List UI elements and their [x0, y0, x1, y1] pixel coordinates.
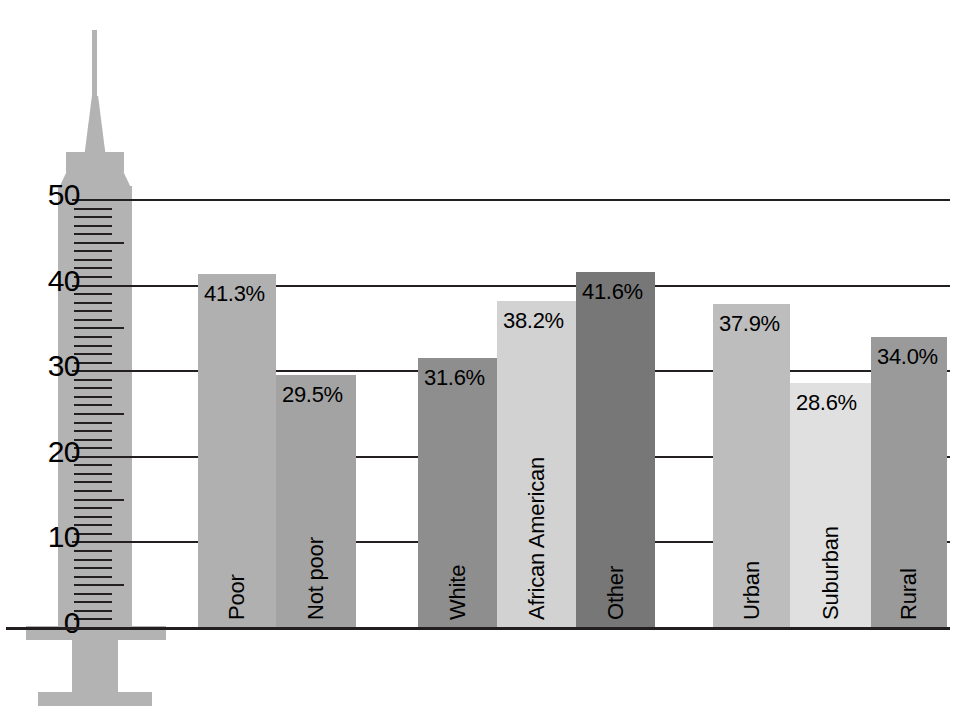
graduation-mark-8: [74, 559, 112, 561]
graduation-mark-10: [72, 541, 132, 543]
bar-african-american[interactable]: 38.2%African American: [497, 301, 576, 628]
y-tick-label-40: 40: [34, 264, 80, 298]
y-tick-label-20: 20: [34, 435, 80, 469]
graduation-mark-25: [74, 413, 124, 415]
bar-category-label: African American: [524, 457, 550, 620]
chart-figure: 01020304050 41.3%Poor29.5%Not poor31.6%W…: [0, 0, 972, 725]
graduation-mark-40: [72, 285, 132, 287]
graduation-mark-4: [74, 593, 112, 595]
bar-category-label: Not poor: [303, 537, 329, 620]
bar-value-label: 37.9%: [719, 311, 780, 337]
graduation-mark-36: [74, 319, 112, 321]
graduation-mark-6: [74, 576, 112, 578]
graduation-mark-17: [74, 481, 112, 483]
syringe-hub-icon: [84, 96, 106, 158]
syringe-thumbrest-icon: [38, 692, 152, 706]
graduation-mark-33: [74, 345, 112, 347]
bar-category-label: Suburban: [818, 526, 844, 620]
gridline-50: [100, 199, 950, 201]
graduation-mark-3: [74, 601, 112, 603]
bar-category-label: Other: [603, 566, 629, 620]
graduation-mark-18: [74, 473, 112, 475]
syringe-barrel-icon: [58, 186, 132, 632]
graduation-mark-34: [74, 336, 112, 338]
graduation-mark-16: [74, 490, 112, 492]
bar-poor[interactable]: 41.3%Poor: [198, 274, 276, 628]
graduation-mark-7: [74, 567, 112, 569]
bar-value-label: 41.6%: [582, 279, 643, 305]
bar-suburban[interactable]: 28.6%Suburban: [790, 383, 871, 628]
y-tick-label-0: 0: [34, 606, 80, 640]
bar-not-poor[interactable]: 29.5%Not poor: [276, 375, 356, 628]
bar-value-label: 41.3%: [204, 281, 265, 307]
graduation-mark-48: [74, 216, 112, 218]
graduation-mark-5: [74, 584, 124, 586]
graduation-mark-47: [74, 225, 112, 227]
graduation-mark-26: [74, 404, 112, 406]
bar-category-label: White: [445, 565, 471, 620]
bar-value-label: 28.6%: [796, 390, 857, 416]
bar-value-label: 38.2%: [503, 308, 564, 334]
graduation-mark-27: [74, 396, 112, 398]
graduation-mark-13: [74, 516, 112, 518]
bar-urban[interactable]: 37.9%Urban: [713, 304, 790, 628]
bar-value-label: 34.0%: [877, 344, 938, 370]
graduation-mark-44: [74, 250, 112, 252]
y-tick-label-50: 50: [34, 178, 80, 212]
graduation-mark-45: [74, 242, 124, 244]
graduation-mark-38: [74, 302, 112, 304]
graduation-mark-30: [72, 370, 132, 372]
graduation-mark-14: [74, 507, 112, 509]
graduation-mark-15: [74, 499, 124, 501]
bar-white[interactable]: 31.6%White: [418, 358, 497, 628]
bar-category-label: Rural: [896, 568, 922, 620]
graduation-mark-20: [72, 456, 132, 458]
bar-category-label: Poor: [224, 574, 250, 620]
axis-baseline: [6, 627, 950, 630]
graduation-mark-37: [74, 310, 112, 312]
y-tick-label-30: 30: [34, 349, 80, 383]
bar-category-label: Urban: [739, 561, 765, 620]
graduation-mark-35: [74, 327, 124, 329]
graduation-mark-43: [74, 259, 112, 261]
syringe-plunger-rod-icon: [72, 636, 118, 698]
graduation-mark-24: [74, 422, 112, 424]
bar-value-label: 31.6%: [424, 365, 485, 391]
bar-other[interactable]: 41.6%Other: [576, 272, 655, 628]
graduation-mark-46: [74, 233, 112, 235]
graduation-mark-28: [74, 387, 112, 389]
graduation-mark-50: [72, 199, 132, 201]
bar-rural[interactable]: 34.0%Rural: [871, 337, 947, 628]
graduation-mark-23: [74, 430, 112, 432]
bar-value-label: 29.5%: [282, 382, 343, 408]
y-tick-label-10: 10: [34, 520, 80, 554]
